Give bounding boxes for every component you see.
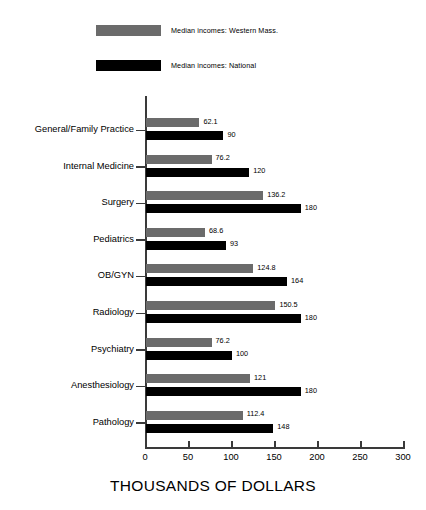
x-axis-tick-label: 50 <box>168 452 208 463</box>
bar-western-mass: 68.6 <box>146 228 205 237</box>
bar-value-label: 76.2 <box>216 153 230 162</box>
bar-national: 100 <box>146 351 232 360</box>
bar-group: General/Family Practice62.190 <box>0 114 426 150</box>
bar-value-label: 93 <box>230 239 238 248</box>
bar-value-label: 124.8 <box>257 263 275 272</box>
y-axis-tick <box>136 386 146 388</box>
bar-western-mass: 121 <box>146 374 250 383</box>
x-axis-tick-label: 150 <box>254 452 294 463</box>
bar-value-label: 120 <box>253 166 265 175</box>
bar-western-mass: 136.2 <box>146 191 263 200</box>
bar-national: 180 <box>146 314 301 323</box>
bar-western-mass: 150.5 <box>146 301 275 310</box>
x-axis-tick-label: 100 <box>211 452 251 463</box>
x-axis-tick <box>317 441 319 449</box>
bar-western-mass: 76.2 <box>146 155 212 164</box>
bar-value-label: 68.6 <box>209 226 223 235</box>
bar-value-label: 148 <box>277 422 289 431</box>
category-label: Anesthesiology <box>0 380 134 391</box>
y-axis-tick <box>136 130 146 132</box>
x-axis-tick-label: 300 <box>383 452 423 463</box>
bar-value-label: 180 <box>305 386 317 395</box>
bar-national: 93 <box>146 241 226 250</box>
chart-container: Median incomes: Western Mass. Median inc… <box>0 0 426 510</box>
x-axis-tick <box>231 441 233 449</box>
bar-national: 180 <box>146 204 301 213</box>
x-axis-tick <box>188 441 190 449</box>
bar-western-mass: 76.2 <box>146 338 212 347</box>
x-axis-tick <box>360 441 362 449</box>
x-axis-title: THOUSANDS OF DOLLARS <box>0 476 426 495</box>
category-label: General/Family Practice <box>0 124 134 135</box>
bar-national: 90 <box>146 131 223 140</box>
bar-group: Psychiatry76.2100 <box>0 334 426 370</box>
x-axis-tick <box>145 441 147 449</box>
category-label: Internal Medicine <box>0 161 134 172</box>
category-label: Pathology <box>0 417 134 428</box>
y-axis-tick <box>136 203 146 205</box>
bar-value-label: 136.2 <box>267 190 285 199</box>
bar-western-mass: 124.8 <box>146 264 253 273</box>
x-axis-tick-label: 200 <box>297 452 337 463</box>
bar-value-label: 90 <box>227 130 235 139</box>
y-axis-tick <box>136 239 146 241</box>
bar-value-label: 180 <box>305 203 317 212</box>
bar-value-label: 100 <box>236 349 248 358</box>
bar-national: 180 <box>146 387 301 396</box>
bar-group: OB/GYN124.8164 <box>0 260 426 296</box>
y-axis-tick <box>136 349 146 351</box>
bar-group: Radiology150.5180 <box>0 297 426 333</box>
bar-value-label: 164 <box>291 276 303 285</box>
bar-western-mass: 62.1 <box>146 118 199 127</box>
category-label: Pediatrics <box>0 234 134 245</box>
bar-group: Pathology112.4148 <box>0 407 426 443</box>
bar-value-label: 121 <box>254 373 266 382</box>
bar-value-label: 150.5 <box>279 300 297 309</box>
bar-group: Internal Medicine76.2120 <box>0 151 426 187</box>
category-label: Radiology <box>0 307 134 318</box>
bar-value-label: 180 <box>305 313 317 322</box>
y-axis-tick <box>136 166 146 168</box>
plot-area: General/Family Practice62.190Internal Me… <box>0 0 426 510</box>
bar-value-label: 112.4 <box>247 409 265 418</box>
bar-western-mass: 112.4 <box>146 411 243 420</box>
y-axis-tick <box>136 422 146 424</box>
x-axis-tick <box>403 441 405 449</box>
category-label: Psychiatry <box>0 344 134 355</box>
bar-national: 164 <box>146 277 287 286</box>
bar-group: Anesthesiology121180 <box>0 370 426 406</box>
bar-value-label: 76.2 <box>216 336 230 345</box>
bar-value-label: 62.1 <box>203 117 217 126</box>
y-axis-tick <box>136 313 146 315</box>
bar-national: 148 <box>146 424 273 433</box>
x-axis-tick <box>274 441 276 449</box>
category-label: OB/GYN <box>0 270 134 281</box>
y-axis-tick <box>136 276 146 278</box>
x-axis-tick-label: 0 <box>125 452 165 463</box>
bar-group: Pediatrics68.693 <box>0 224 426 260</box>
category-label: Surgery <box>0 197 134 208</box>
x-axis-tick-label: 250 <box>340 452 380 463</box>
bar-national: 120 <box>146 168 249 177</box>
bar-group: Surgery136.2180 <box>0 187 426 223</box>
